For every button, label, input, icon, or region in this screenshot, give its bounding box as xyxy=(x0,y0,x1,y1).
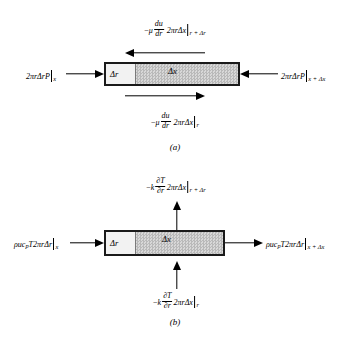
panel-b-top-den: ∂r xyxy=(155,187,165,196)
panel-a-right-eval: x + Δx xyxy=(308,75,325,82)
panel-a-top-eval: r + Δr xyxy=(190,29,206,36)
panel-b-bottom-arrow-shaft xyxy=(176,269,177,289)
panel-b-bottom-factor: 2πrΔx xyxy=(174,298,193,307)
panel-b-left-rho: ρu xyxy=(14,240,22,249)
panel-b-top-label: −k∂T∂r2πrΔxr + Δr xyxy=(146,177,206,196)
panel-b-right-arrow xyxy=(225,238,263,248)
panel-b-top-factor: 2πrΔx xyxy=(167,183,186,192)
panel-b-top-eval: r + Δr xyxy=(190,186,206,193)
panel-a-top-mu: μ xyxy=(149,26,153,35)
panel-b-right-rho: ρu xyxy=(266,240,274,249)
panel-b-bottom-k: k xyxy=(158,298,162,307)
panel-a-right-eval-bar xyxy=(306,70,307,82)
panel-b-top-arrow xyxy=(172,201,182,231)
panel-a-bottom-arrow-shaft xyxy=(125,95,197,96)
panel-b-caption: (b) xyxy=(0,317,350,327)
panel-b-control-volume: Δr Δx xyxy=(104,230,225,256)
panel-b-left-eval-bar xyxy=(53,238,54,250)
panel-b-top-arrow-shaft xyxy=(176,209,177,231)
panel-a-bottom-factor: 2πrΔx xyxy=(174,118,193,127)
panel-a-bottom-arrow xyxy=(125,91,205,101)
panel-a-top-eval-bar xyxy=(187,24,188,36)
panel-a-momentum-balance: −μdudr2πrΔxr + Δr Δr Δx 2πrΔrPx 2πrΔrPx … xyxy=(0,0,350,172)
panel-b-right-eval-bar xyxy=(305,238,306,250)
panel-b-top-derivative: ∂T∂r xyxy=(155,177,165,196)
panel-a-top-derivative: dudr xyxy=(154,20,164,39)
panel-b-right-label: ρucpT2πrΔrx + Δx xyxy=(266,238,324,250)
panel-a-control-volume: Δr Δx xyxy=(104,62,240,86)
panel-a-top-arrow-shaft xyxy=(133,52,205,53)
panel-a-left-label: 2πrΔrPx xyxy=(26,70,56,82)
panel-b-bottom-den: ∂r xyxy=(162,302,172,311)
panel-a-bottom-eval-bar xyxy=(194,116,195,128)
panel-a-bottom-den: dr xyxy=(161,122,171,131)
panel-b-right-factor: 2πrΔr xyxy=(285,240,304,249)
panel-b-left-arrow-shaft xyxy=(70,242,96,243)
panel-b-left-label: ρucpT2πrΔrx xyxy=(14,238,58,250)
panel-a-bottom-arrow-head xyxy=(196,92,205,100)
panel-b-dx-label: Δx xyxy=(162,234,171,244)
panel-b-left-eval: x xyxy=(56,243,59,250)
panel-b-top-k: k xyxy=(151,183,155,192)
panel-a-left-arrow-head xyxy=(95,70,104,78)
panel-b-top-arrow-head xyxy=(173,201,181,210)
panel-a-top-arrow-head xyxy=(125,49,134,57)
panel-a-top-label: −μdudr2πrΔxr + Δr xyxy=(144,20,206,39)
panel-a-bottom-label: −μdudr2πrΔxr xyxy=(151,112,199,131)
panel-a-right-factor: 2πrΔrP xyxy=(281,72,305,81)
panel-b-left-factor: 2πrΔr xyxy=(33,240,52,249)
panel-a-left-arrow xyxy=(66,69,104,79)
panel-a-caption: (a) xyxy=(0,142,350,152)
panel-b-left-arrow-head xyxy=(95,239,104,247)
panel-b-bottom-eval-bar xyxy=(194,296,195,308)
panel-a-dx-label: Δx xyxy=(168,66,177,76)
panel-a-right-arrow xyxy=(240,69,278,79)
panel-b-bottom-arrow xyxy=(172,261,182,289)
panel-a-top-den: dr xyxy=(154,30,164,39)
panel-b-top-eval-bar xyxy=(187,181,188,193)
panel-b-bottom-label: −k∂T∂r2πrΔxr xyxy=(153,292,199,311)
panel-a-bottom-mu: μ xyxy=(156,118,160,127)
panel-b-dr-label: Δr xyxy=(110,238,118,248)
panel-a-bottom-derivative: dudr xyxy=(161,112,171,131)
panel-a-right-arrow-shaft xyxy=(248,73,278,74)
panel-a-top-arrow xyxy=(125,48,205,58)
panel-b-right-arrow-shaft xyxy=(225,242,255,243)
panel-a-left-eval-bar xyxy=(51,70,52,82)
panel-b-bottom-derivative: ∂T∂r xyxy=(162,292,172,311)
panel-a-bottom-eval: r xyxy=(196,121,199,128)
panel-b-right-arrow-head xyxy=(254,239,263,247)
panel-b-bottom-eval: r xyxy=(196,301,199,308)
panel-b-left-arrow xyxy=(70,238,104,248)
panel-a-right-label: 2πrΔrPx + Δx xyxy=(281,70,325,82)
panel-a-dr-label: Δr xyxy=(110,69,118,79)
panel-a-left-arrow-shaft xyxy=(66,73,96,74)
panel-a-left-factor: 2πrΔrP xyxy=(26,72,50,81)
panel-a-right-arrow-head xyxy=(240,70,249,78)
panel-b-bottom-arrow-head xyxy=(173,261,181,270)
panel-a-left-eval: x xyxy=(53,75,56,82)
panel-a-top-factor: 2πrΔx xyxy=(167,26,186,35)
panel-b-right-eval: x + Δx xyxy=(308,243,325,250)
panel-b-energy-balance: −k∂T∂r2πrΔxr + Δr Δr Δx ρucpT2πrΔrx ρucp… xyxy=(0,171,350,343)
